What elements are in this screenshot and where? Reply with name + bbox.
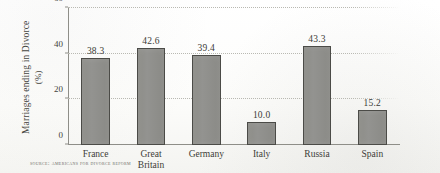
source-text: Americans for Divorce Reform bbox=[52, 160, 131, 166]
source-note: Source:Americans for Divorce Reform bbox=[30, 160, 131, 166]
bar-group[interactable]: 15.2Spain bbox=[358, 8, 387, 145]
bar-value-label: 15.2 bbox=[364, 98, 381, 108]
x-axis-category-label: Italy bbox=[253, 149, 270, 160]
x-axis-category-label: France bbox=[83, 149, 109, 160]
bar[interactable] bbox=[303, 46, 332, 145]
bars-group: 38.3France42.6Great Britain39.4Germany10… bbox=[68, 8, 400, 145]
y-tick-label-40: 40 bbox=[54, 39, 63, 49]
y-axis-title: Marriages ending in Divorce (%) bbox=[24, 14, 42, 140]
bar-group[interactable]: 42.6Great Britain bbox=[137, 8, 166, 145]
bar[interactable] bbox=[137, 48, 166, 145]
bar-group[interactable]: 38.3France bbox=[81, 8, 110, 145]
y-tick-label-60: 60 bbox=[54, 0, 63, 3]
bar-value-label: 38.3 bbox=[87, 46, 104, 56]
bar-value-label: 42.6 bbox=[142, 36, 159, 46]
source-label: Source: bbox=[30, 160, 50, 166]
x-axis-category-label: Germany bbox=[189, 149, 224, 160]
bar[interactable] bbox=[247, 122, 276, 145]
bar[interactable] bbox=[358, 110, 387, 145]
y-axis-title-text: Marriages ending in Divorce bbox=[22, 20, 32, 134]
bar-value-label: 39.4 bbox=[198, 43, 215, 53]
bar-group[interactable]: 43.3Russia bbox=[303, 8, 332, 145]
bar-value-label: 43.3 bbox=[308, 34, 325, 44]
bar-chart-figure: Marriages ending in Divorce (%) 0204060 … bbox=[0, 0, 440, 173]
bar-group[interactable]: 10.0Italy bbox=[247, 8, 276, 145]
x-axis-category-label: Spain bbox=[361, 149, 383, 160]
y-tick-label-20: 20 bbox=[54, 84, 63, 94]
bar-value-label: 10.0 bbox=[253, 110, 270, 120]
bar[interactable] bbox=[81, 58, 110, 145]
bar[interactable] bbox=[192, 55, 221, 145]
x-axis-category-label: Great Britain bbox=[138, 149, 164, 171]
y-tick-label-0: 0 bbox=[59, 130, 64, 140]
bar-group[interactable]: 39.4Germany bbox=[192, 8, 221, 145]
y-axis-unit-text: (%) bbox=[33, 20, 44, 134]
plot-area: 0204060 38.3France42.6Great Britain39.4G… bbox=[68, 8, 400, 145]
x-axis-category-label: Russia bbox=[304, 149, 329, 160]
